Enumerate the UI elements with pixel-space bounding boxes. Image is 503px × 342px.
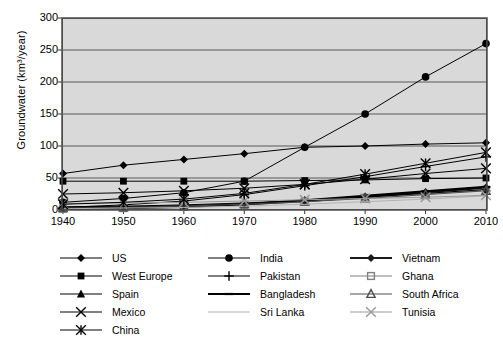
marker-diamond	[361, 142, 369, 150]
legend-item-west-europe[interactable]: West Europe	[58, 267, 204, 285]
series-line	[63, 143, 486, 174]
legend-label: Pakistan	[252, 270, 300, 282]
legend-label: Tunisia	[394, 306, 435, 318]
marker-diamond	[422, 140, 430, 148]
legend-marker-cross-x-icon	[58, 303, 104, 321]
legend-marker-asterisk-icon	[58, 321, 104, 339]
legend-item-china[interactable]: China	[58, 321, 204, 339]
legend-item-tunisia[interactable]: Tunisia	[348, 303, 494, 321]
legend-column-3: VietnamGhanaSouth AfricaTunisia	[348, 249, 494, 321]
series-us	[59, 139, 490, 178]
marker-circle	[225, 254, 233, 262]
legend-marker-filled-square-icon	[58, 267, 104, 285]
legend-label: Mexico	[104, 306, 145, 318]
marker-circle	[361, 110, 369, 118]
marker-square	[78, 273, 85, 280]
legend-item-us[interactable]: US	[58, 249, 204, 267]
legend-item-sri-lanka[interactable]: Sri Lanka	[206, 303, 352, 321]
legend-label: Vietnam	[394, 252, 440, 264]
marker-diamond	[59, 170, 67, 178]
marker-square	[120, 178, 127, 185]
legend-item-vietnam[interactable]: Vietnam	[348, 249, 494, 267]
legend-item-india[interactable]: India	[206, 249, 352, 267]
marker-diamond	[180, 155, 188, 163]
legend-item-spain[interactable]: Spain	[58, 285, 204, 303]
legend-label: West Europe	[104, 270, 173, 282]
legend-label: Bangladesh	[252, 288, 315, 300]
legend-label: US	[104, 252, 127, 264]
legend-marker-open-triangle-icon	[348, 285, 394, 303]
marker-square	[60, 178, 67, 185]
legend-marker-open-square-icon	[348, 267, 394, 285]
marker-diamond	[77, 254, 85, 262]
legend-marker-filled-triangle-icon	[58, 285, 104, 303]
legend-column-2: IndiaPakistanBangladeshSri Lanka	[206, 249, 352, 321]
legend-marker-plus-icon	[206, 267, 252, 285]
marker-circle	[422, 73, 430, 81]
legend-marker-filled-circle-icon	[206, 249, 252, 267]
chart-legend: USWest EuropeSpainMexicoChinaIndiaPakist…	[58, 249, 494, 339]
legend-item-south-africa[interactable]: South Africa	[348, 285, 494, 303]
marker-diamond	[240, 150, 248, 158]
legend-label: India	[252, 252, 283, 264]
marker-circle	[301, 143, 309, 151]
legend-item-pakistan[interactable]: Pakistan	[206, 267, 352, 285]
legend-marker-filled-diamond-icon	[348, 249, 394, 267]
legend-item-bangladesh[interactable]: Bangladesh	[206, 285, 352, 303]
legend-marker-line-icon	[206, 303, 252, 321]
legend-marker-dash-icon	[206, 285, 252, 303]
marker-dash	[225, 293, 234, 295]
legend-label: Sri Lanka	[252, 306, 304, 318]
legend-marker-cross-x-icon	[348, 303, 394, 321]
legend-column-1: USWest EuropeSpainMexicoChina	[58, 249, 204, 339]
legend-label: China	[104, 324, 139, 336]
legend-item-mexico[interactable]: Mexico	[58, 303, 204, 321]
legend-item-ghana[interactable]: Ghana	[348, 267, 494, 285]
legend-label: South Africa	[394, 288, 459, 300]
marker-square	[483, 175, 490, 182]
legend-label: Spain	[104, 288, 139, 300]
series-west-europe	[60, 175, 490, 185]
legend-label: Ghana	[394, 270, 434, 282]
legend-marker-filled-diamond-icon	[58, 249, 104, 267]
marker-square	[241, 178, 248, 185]
marker-circle	[482, 40, 490, 48]
marker-square	[180, 178, 187, 185]
marker-diamond	[119, 161, 127, 169]
marker-diamond	[367, 254, 375, 262]
